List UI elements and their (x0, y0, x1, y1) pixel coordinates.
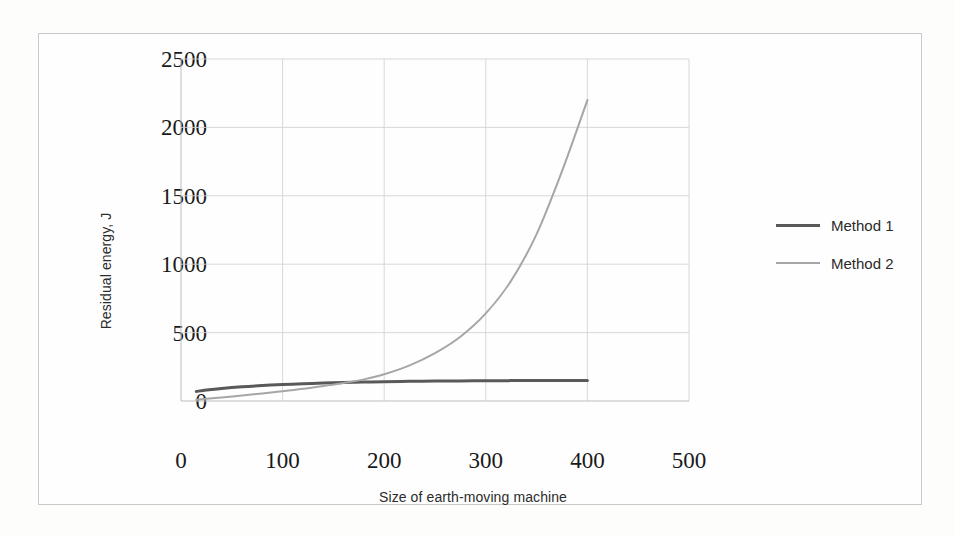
legend-item-label: Method 2 (831, 255, 894, 272)
series-line-2 (196, 100, 587, 400)
legend-line-swatch (776, 224, 820, 227)
legend-item-1[interactable]: Method 1 (776, 206, 946, 244)
legend-item-label: Method 1 (831, 217, 894, 234)
legend-line-swatch (776, 262, 820, 264)
chart-legend: Method 1Method 2 (776, 206, 946, 282)
legend-item-2[interactable]: Method 2 (776, 244, 946, 282)
series-line-1 (196, 380, 587, 391)
figure-frame: Residual energy, J Size of earth-moving … (38, 33, 922, 505)
